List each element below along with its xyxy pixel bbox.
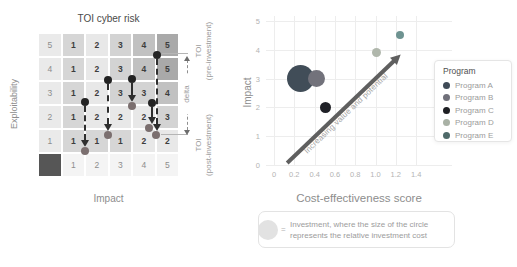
legend-item: Program A [443,79,511,92]
post-investment-dot [152,131,160,139]
y-gridline [266,136,452,137]
legend-item-label: Program E [455,131,493,140]
x-gridline [396,16,397,166]
legend-item: Program C [443,104,511,117]
post-investment-dot [104,131,112,139]
risk-matrix-grid: 51234541234531233421222311112212345 [38,33,179,177]
movement-dashed-line [131,83,133,95]
x-gridline [335,16,336,166]
post-investment-dot [81,147,89,155]
matrix-corner-cell [38,153,62,177]
toi-post-line1: TOI [194,90,204,200]
x-tick-label: 1.4 [404,170,428,179]
legend-item: Program E [443,129,511,142]
legend-item-label: Program A [455,81,493,90]
matrix-x-axis-label: Impact [38,193,179,204]
x-gridline [355,16,356,166]
y-tick-label: 0 [242,161,260,170]
scatter-x-axis-label: Cost-effectiveness score [266,192,452,204]
matrix-y-tick: 2 [38,105,62,129]
movement-dashed-line [84,106,86,140]
figure-canvas: TOI cyber risk Exploitability 5123454123… [0,0,517,267]
legend-item-label: Program D [455,118,494,127]
matrix-cell: 5 [156,57,180,81]
matrix-x-tick: 4 [132,153,156,177]
matrix-x-tick: 2 [85,153,109,177]
matrix-cell: 1 [62,57,86,81]
matrix-y-tick: 3 [38,81,62,105]
x-gridline [274,16,275,166]
matrix-title: TOI cyber risk [38,13,179,24]
movement-arrowhead-icon [148,117,156,124]
movement-arrowhead-icon [128,95,136,102]
matrix-cell: 1 [109,129,133,153]
matrix-y-axis-label: Exploitability [9,59,19,149]
matrix-cell: 1 [62,33,86,57]
investment-note-line1: Investment, where the size of the circle [290,219,428,230]
y-gridline [266,21,452,22]
matrix-y-tick: 1 [38,129,62,153]
scatter-bubble-program-d [372,48,381,57]
matrix-cell: 4 [132,33,156,57]
y-gridline [266,107,452,108]
pre-investment-dot [128,75,136,83]
movement-dashed-line [151,107,153,117]
movement-arrowhead-icon [104,124,112,131]
investment-note-line2: represents the relative investment cost [290,230,428,241]
legend-item-label: Program B [455,93,493,102]
movement-dashed-line [156,59,158,124]
pre-investment-dot [81,98,89,106]
toi-post-investment-label: TOI (post-investment) [194,90,214,200]
legend-item: Program B [443,92,511,105]
y-tick-label: 4 [242,46,260,55]
equals-sign: = [281,225,286,234]
investment-note-text: Investment, where the size of the circle… [290,219,428,241]
post-investment-dot [145,124,153,132]
y-tick-label: 2 [242,103,260,112]
post-investment-dot [128,102,136,110]
legend-dot-icon [443,107,450,114]
delta-arrow-down-icon [184,130,190,135]
scatter-bubble-program-e [396,31,404,39]
legend-dot-icon [443,94,450,101]
y-gridline [266,50,452,51]
matrix-x-tick: 3 [109,153,133,177]
movement-dashed-line [107,84,109,124]
delta-label: delta [182,74,192,114]
y-tick-label: 3 [242,75,260,84]
toi-post-line2: (post-investment) [204,90,214,200]
matrix-x-tick: 5 [156,153,180,177]
investment-circle-icon [258,220,278,240]
legend-items: Program AProgram BProgram CProgram DProg… [443,79,511,142]
matrix-y-tick: 4 [38,57,62,81]
matrix-y-tick: 5 [38,33,62,57]
legend-dot-icon [443,132,450,139]
movement-arrowhead-icon [81,140,89,147]
movement-arrowhead-icon [153,124,161,131]
legend-dot-icon [443,82,450,89]
pre-investment-dot [148,99,156,107]
y-tick-label: 1 [242,132,260,141]
matrix-cell: 4 [156,81,180,105]
legend-item-label: Program C [455,106,494,115]
investment-note: = Investment, where the size of the circ… [258,211,455,248]
pre-investment-dot [104,76,112,84]
scatter-bubble-program-b [308,70,325,87]
pre-investment-leader-line [162,53,188,54]
matrix-x-tick: 1 [62,153,86,177]
matrix-cell: 3 [109,33,133,57]
delta-arrow-up-icon [184,56,190,61]
legend-dot-icon [443,119,450,126]
legend-title: Program [443,66,511,76]
y-tick-label: 5 [242,17,260,26]
scatter-bubble-program-c [320,102,331,113]
matrix-cell: 2 [85,33,109,57]
pre-investment-dot [153,51,161,59]
program-legend: Program Program AProgram BProgram CProgr… [434,60,512,142]
x-gridline [416,16,417,166]
legend-item: Program D [443,117,511,130]
matrix-cell: 1 [62,105,86,129]
